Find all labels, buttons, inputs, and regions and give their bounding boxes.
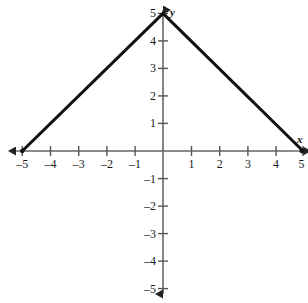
y-tick-label-5: 5 bbox=[150, 7, 156, 19]
x-tick-label-neg2: –2 bbox=[101, 158, 113, 170]
y-tick-label-4: 4 bbox=[150, 35, 156, 47]
x-intercept-right-point bbox=[300, 149, 305, 154]
y-tick-label-2: 2 bbox=[150, 90, 156, 102]
x-tick-label-neg1: –1 bbox=[129, 158, 141, 170]
y-tick-label-neg1: –1 bbox=[144, 173, 156, 185]
y-tick-label-neg4: –4 bbox=[144, 255, 156, 267]
x-tick-label-5: 5 bbox=[299, 158, 305, 170]
y-tick-label-neg2: –2 bbox=[144, 200, 156, 212]
x-tick-label-neg3: –3 bbox=[73, 158, 85, 170]
x-tick-label-4: 4 bbox=[273, 158, 279, 170]
y-tick-label-3: 3 bbox=[150, 62, 156, 74]
graph-figure: –5 –4 –3 –2 –1 1 2 3 4 5 5 4 3 2 1 –1 –2… bbox=[0, 0, 308, 303]
x-axis-label: x bbox=[297, 134, 303, 145]
x-tick-label-1: 1 bbox=[189, 158, 195, 170]
x-tick-label-neg5: –5 bbox=[16, 158, 28, 170]
y-axis-label: y bbox=[170, 7, 175, 18]
x-tick-label-neg4: –4 bbox=[45, 158, 57, 170]
y-tick-label-1: 1 bbox=[150, 117, 156, 129]
x-tick-label-3: 3 bbox=[245, 158, 251, 170]
x-intercept-left-point bbox=[20, 149, 24, 153]
y-tick-label-neg5: –5 bbox=[144, 283, 156, 295]
y-tick-label-neg3: –3 bbox=[144, 228, 156, 240]
x-tick-label-2: 2 bbox=[217, 158, 223, 170]
